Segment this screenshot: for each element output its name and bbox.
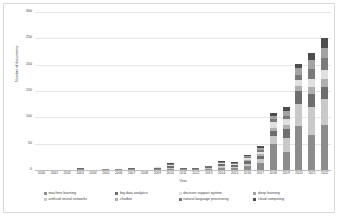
bar-segment: [257, 163, 264, 170]
legend-item-label: deep learning: [258, 192, 280, 196]
bar-segment: [244, 166, 251, 170]
bar-stack: [308, 53, 315, 170]
bar-segment: [283, 138, 290, 151]
y-tick-label: 50: [28, 142, 32, 146]
bar-column[interactable]: [74, 12, 87, 170]
bar-column[interactable]: [228, 12, 241, 170]
bar-segment: [180, 169, 187, 170]
x-tick-label: 2012: [190, 172, 203, 175]
bar-segment: [154, 169, 161, 170]
bar-column[interactable]: [112, 12, 125, 170]
legend-item-label: big data analytics: [120, 192, 148, 196]
bar-segment: [308, 87, 315, 94]
bar-column[interactable]: [241, 12, 254, 170]
legend-item-label: decision support system: [183, 192, 222, 196]
legend-row-2: artificial neural networkschatbotnatural…: [44, 198, 302, 202]
bar-column[interactable]: [305, 12, 318, 170]
bar-stack: [283, 107, 290, 170]
legend-row-1: machine learningbig data analyticsdecisi…: [44, 192, 302, 196]
x-tick-label: 2017: [254, 172, 267, 175]
bar-column[interactable]: [151, 12, 164, 170]
bar-segment: [192, 169, 199, 170]
bar-segment: [102, 169, 109, 170]
bar-stack: [77, 168, 84, 170]
bar-stack: [180, 168, 187, 170]
bar-stack: [128, 168, 135, 170]
bar-stack: [154, 167, 161, 170]
bar-column[interactable]: [125, 12, 138, 170]
y-axis-title: Number of documents: [16, 34, 20, 94]
bar-segment: [321, 87, 328, 99]
bar-column[interactable]: [138, 12, 151, 170]
legend-item[interactable]: decision support system: [179, 192, 254, 196]
bar-stack: [218, 161, 225, 170]
x-tick-label: 2016: [241, 172, 254, 175]
bar-column[interactable]: [267, 12, 280, 170]
x-tick-label: 2021: [305, 172, 318, 175]
bar-column[interactable]: [99, 12, 112, 170]
bar-column[interactable]: [35, 12, 48, 170]
bar-segment: [77, 169, 84, 170]
bar-segment: [270, 144, 277, 170]
bar-segment: [231, 168, 238, 170]
bar-segment: [308, 53, 315, 60]
legend-item[interactable]: deep learning: [253, 192, 302, 196]
bar-stack: [231, 162, 238, 170]
x-tick-label: 2003: [74, 172, 87, 175]
legend-item[interactable]: natural language processing: [179, 198, 254, 202]
bar-stack: [192, 168, 199, 170]
legend-item[interactable]: artificial neural networks: [44, 198, 115, 202]
bar-segment: [321, 58, 328, 70]
bar-column[interactable]: [190, 12, 203, 170]
legend-item[interactable]: chatbot: [115, 198, 178, 202]
bar-series-container: [35, 12, 331, 170]
y-tick-label: 150: [26, 89, 32, 93]
legend-swatch-icon: [253, 198, 256, 201]
bar-column[interactable]: [280, 12, 293, 170]
bar-segment: [115, 169, 122, 170]
bar-column[interactable]: [293, 12, 306, 170]
legend-swatch-icon: [44, 198, 47, 201]
y-tick-label: 100: [26, 116, 32, 120]
x-tick-label: 2000: [35, 172, 48, 175]
legend-swatch-icon: [115, 192, 118, 195]
bar-column[interactable]: [318, 12, 331, 170]
bar-column[interactable]: [164, 12, 177, 170]
legend-item[interactable]: machine learning: [44, 192, 115, 196]
bar-segment: [205, 169, 212, 170]
x-tick-label: 2002: [61, 172, 74, 175]
bar-stack: [244, 155, 251, 170]
legend-swatch-icon: [115, 198, 118, 201]
bar-column[interactable]: [48, 12, 61, 170]
bar-segment: [295, 104, 302, 126]
bar-stack: [270, 113, 277, 170]
bar-segment: [295, 126, 302, 170]
bar-column[interactable]: [87, 12, 100, 170]
bar-segment: [308, 135, 315, 170]
x-axis-tick-labels: 2000200120022003200420052006200720082009…: [35, 172, 331, 175]
bar-column[interactable]: [215, 12, 228, 170]
bar-segment: [218, 168, 225, 170]
legend-item-label: natural language processing: [183, 198, 228, 202]
bar-stack: [102, 169, 109, 170]
legend-item[interactable]: cloud computing: [253, 198, 302, 202]
x-tick-label: 2001: [48, 172, 61, 175]
legend-swatch-icon: [179, 198, 182, 201]
x-tick-label: 2004: [87, 172, 100, 175]
bar-segment: [128, 169, 135, 170]
bar-segment: [283, 152, 290, 170]
legend-item[interactable]: big data analytics: [115, 192, 178, 196]
bar-column[interactable]: [61, 12, 74, 170]
x-tick-label: 2006: [112, 172, 125, 175]
bar-column[interactable]: [177, 12, 190, 170]
y-tick-label: 0: [30, 168, 32, 172]
x-tick-label: 2022: [318, 172, 331, 175]
bar-column[interactable]: [202, 12, 215, 170]
bar-segment: [321, 70, 328, 79]
bar-segment: [283, 129, 290, 138]
bar-stack: [321, 38, 328, 170]
bar-segment: [295, 91, 302, 104]
legend-item-label: artificial neural networks: [49, 198, 88, 202]
bar-column[interactable]: [254, 12, 267, 170]
legend-swatch-icon: [44, 192, 47, 195]
